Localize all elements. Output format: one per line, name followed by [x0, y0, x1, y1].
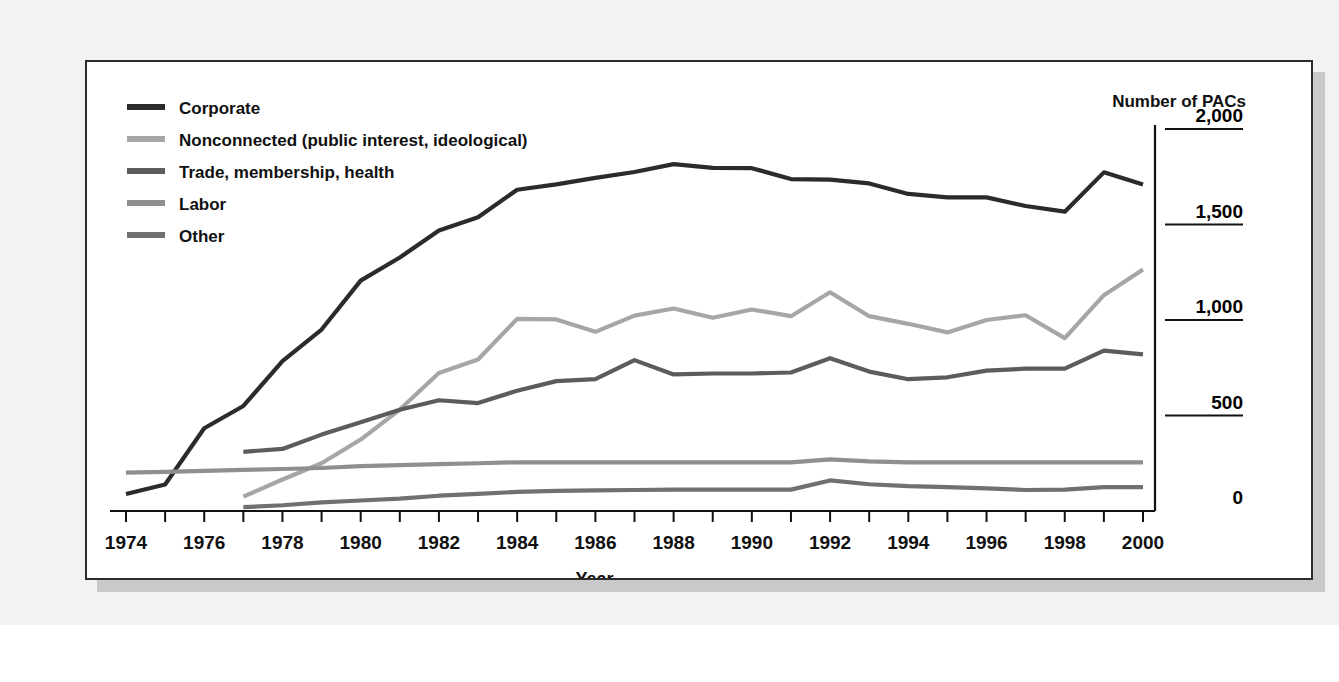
- y-tick-label: 0: [1232, 487, 1243, 508]
- x-tick-label: 1998: [1044, 532, 1086, 553]
- legend-label-2: Trade, membership, health: [179, 163, 394, 182]
- figure-frame: 1974197619781980198219841986198819901992…: [85, 60, 1313, 580]
- y-tick-label: 500: [1211, 392, 1243, 413]
- legend-label-3: Labor: [179, 195, 227, 214]
- x-tick-label: 1980: [340, 532, 382, 553]
- x-tick-label: 1984: [496, 532, 539, 553]
- x-tick-label: 1996: [965, 532, 1007, 553]
- legend-label-4: Other: [179, 227, 225, 246]
- x-tick-label: 1992: [809, 532, 851, 553]
- x-tick-label: 1974: [105, 532, 148, 553]
- series-line-labor: [126, 459, 1143, 472]
- line-chart: 1974197619781980198219841986198819901992…: [87, 62, 1311, 578]
- y-tick-label: 1,500: [1195, 201, 1243, 222]
- page-background-lower: [0, 625, 1339, 682]
- series-line-corporate: [126, 164, 1143, 494]
- x-tick-label: 1982: [418, 532, 460, 553]
- x-tick-label: 1986: [574, 532, 616, 553]
- x-axis-title: Year: [575, 569, 613, 578]
- x-tick-label: 1988: [652, 532, 694, 553]
- y-axis-unit-label: Number of PACs: [1112, 92, 1246, 111]
- series-line-trade-membership-health: [243, 351, 1143, 452]
- legend-label-0: Corporate: [179, 99, 260, 118]
- x-tick-label: 2000: [1122, 532, 1164, 553]
- x-tick-label: 1990: [731, 532, 773, 553]
- x-tick-label: 1978: [261, 532, 303, 553]
- legend-label-1: Nonconnected (public interest, ideologic…: [179, 131, 528, 150]
- x-tick-label: 1994: [887, 532, 930, 553]
- x-tick-label: 1976: [183, 532, 225, 553]
- y-tick-label: 1,000: [1195, 296, 1243, 317]
- series-line-other: [243, 480, 1143, 507]
- chart-plot-area: 1974197619781980198219841986198819901992…: [87, 62, 1311, 578]
